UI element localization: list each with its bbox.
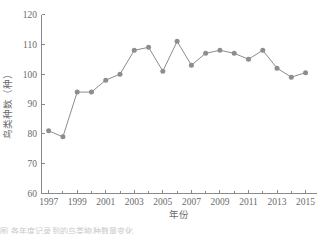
data-point-2005[interactable] <box>160 69 165 74</box>
x-tick-label-2011: 2011 <box>239 197 258 207</box>
data-point-2009[interactable] <box>217 48 222 53</box>
y-tick-label-60: 60 <box>28 189 38 199</box>
y-tick-label-110: 110 <box>23 40 37 50</box>
x-tick-label-2007: 2007 <box>182 197 201 207</box>
x-tick-label-2013: 2013 <box>268 197 287 207</box>
data-point-2006[interactable] <box>175 39 180 44</box>
y-tick-label-100: 100 <box>23 70 38 80</box>
data-point-2001[interactable] <box>103 78 108 83</box>
x-tick-label-2001: 2001 <box>96 197 115 207</box>
data-point-2013[interactable] <box>275 66 280 71</box>
x-tick-label-2005: 2005 <box>153 197 172 207</box>
x-tick-label-1997: 1997 <box>39 197 58 207</box>
y-tick-label-120: 120 <box>23 10 38 20</box>
x-tick-label-2003: 2003 <box>125 197 144 207</box>
y-tick-label-80: 80 <box>28 129 38 139</box>
data-point-2011[interactable] <box>246 57 251 62</box>
x-tick-label-2009: 2009 <box>210 197 229 207</box>
chart-canvas: 6070809010011012019971999200120032005200… <box>0 0 329 234</box>
data-point-1999[interactable] <box>75 90 80 95</box>
x-tick-label-1999: 1999 <box>68 197 87 207</box>
data-point-2015[interactable] <box>303 70 308 75</box>
bird-species-line-chart-figure: 6070809010011012019971999200120032005200… <box>0 0 329 234</box>
y-tick-label-70: 70 <box>28 159 38 169</box>
data-point-2012[interactable] <box>260 48 265 53</box>
data-point-2000[interactable] <box>89 90 94 95</box>
data-point-2014[interactable] <box>289 75 294 80</box>
data-point-2008[interactable] <box>203 51 208 56</box>
figure-caption: 图 各年度记录到的鸟类物种数量变化 <box>0 227 329 234</box>
data-point-2002[interactable] <box>118 72 123 77</box>
y-axis-title: 鸟类种数（种） <box>2 69 13 139</box>
x-axis-title: 年份 <box>169 209 189 220</box>
data-point-2004[interactable] <box>146 45 151 50</box>
y-tick-label-90: 90 <box>28 99 38 109</box>
data-point-1998[interactable] <box>60 134 65 139</box>
data-point-2007[interactable] <box>189 63 194 68</box>
data-point-2010[interactable] <box>232 51 237 56</box>
x-tick-label-2015: 2015 <box>296 197 315 207</box>
data-point-2003[interactable] <box>132 48 137 53</box>
series-line-bird-species <box>49 41 306 136</box>
data-point-1997[interactable] <box>46 128 51 133</box>
